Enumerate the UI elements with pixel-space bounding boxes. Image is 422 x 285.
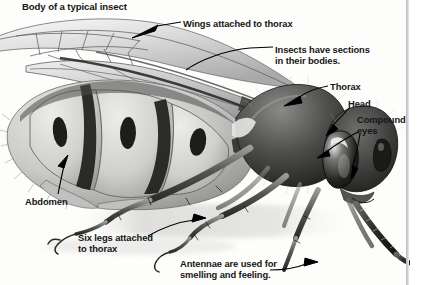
page-margin-whitespace xyxy=(410,0,422,285)
page-margin-rule xyxy=(406,0,409,285)
label-abdomen: Abdomen xyxy=(25,196,68,207)
label-head: Head xyxy=(348,98,371,109)
label-thorax: Thorax xyxy=(330,81,361,92)
label-sections: Insects have sections in their bodies. xyxy=(275,44,370,66)
diagram-title: Body of a typical insect xyxy=(22,1,127,12)
insect-diagram-page: Body of a typical insect Wings attached … xyxy=(0,0,422,285)
wasp-illustration xyxy=(0,0,422,285)
label-six-legs: Six legs attached to thorax xyxy=(78,232,153,254)
label-compound-eyes: Compound eyes xyxy=(357,114,406,136)
label-antennae: Antennae are used for smelling and feeli… xyxy=(180,258,277,280)
label-wings: Wings attached to thorax xyxy=(183,18,293,29)
